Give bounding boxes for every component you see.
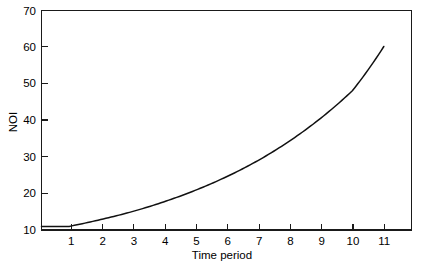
noi-time-period-line-chart: 10 20 30 40 50 60 70 1 2 3 4	[0, 0, 423, 269]
x-tick-label-5: 5	[193, 235, 199, 247]
x-tick-label-6: 6	[225, 235, 231, 247]
y-tick-label-70: 70	[23, 5, 36, 17]
x-tick-label-4: 4	[162, 235, 169, 247]
y-tick-label-40: 40	[23, 114, 36, 126]
x-tick-label-11: 11	[378, 235, 390, 247]
chart-figure: 10 20 30 40 50 60 70 1 2 3 4	[0, 0, 423, 269]
y-tick-label-60: 60	[23, 41, 36, 53]
y-tick-label-50: 50	[23, 77, 36, 89]
x-tick-label-10: 10	[347, 235, 360, 247]
y-axis-title: NOI	[7, 112, 19, 132]
x-axis-title: Time period	[192, 249, 252, 261]
x-tick-label-7: 7	[256, 235, 262, 247]
y-tick-label-30: 30	[23, 151, 36, 163]
x-tick-label-2: 2	[99, 235, 105, 247]
x-tick-label-1: 1	[68, 235, 74, 247]
y-tick-label-20: 20	[23, 187, 36, 199]
y-tick-label-10: 10	[23, 224, 36, 236]
x-tick-label-9: 9	[318, 235, 324, 247]
chart-background	[0, 0, 423, 269]
x-tick-label-3: 3	[131, 235, 137, 247]
x-tick-label-8: 8	[287, 235, 293, 247]
